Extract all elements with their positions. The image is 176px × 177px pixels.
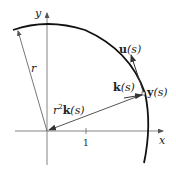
curvature-label: k(s) [113,81,135,94]
curvature-vector [124,95,142,98]
curvature-diagram: y x 1 r u(s) k(s) y(s) r2k(s) [0,0,176,177]
point-y-s [142,92,145,95]
radius-line [18,31,47,131]
scaled-curvature-label: r2k(s) [53,103,85,117]
tick-label-1: 1 [83,138,89,148]
radius-label: r [31,62,37,75]
position-label: y(s) [146,86,168,99]
tangent-label: u(s) [119,43,141,56]
y-axis-label: y [34,7,42,20]
x-axis-label: x [159,134,166,147]
